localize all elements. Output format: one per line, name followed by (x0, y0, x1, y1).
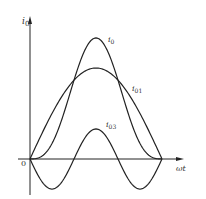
i0-label: i0 (108, 35, 115, 45)
curve-i01 (30, 68, 162, 159)
i01-label: i01 (132, 84, 142, 94)
y-axis-label: i0 (22, 16, 29, 28)
x-axis-arrow-icon (176, 157, 184, 161)
i03-label: i03 (106, 120, 116, 130)
origin-label: 0 (21, 159, 26, 168)
curve-i0 (30, 38, 162, 159)
waveform-chart: i0 0 ωt i0 i01 i03 (0, 0, 206, 199)
x-axis-label: ωt (176, 164, 187, 173)
